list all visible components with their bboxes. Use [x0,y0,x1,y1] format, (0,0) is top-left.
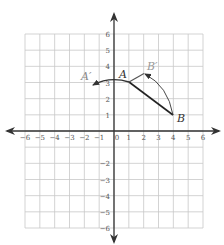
label-a: A [118,68,127,81]
svg-text:5: 5 [186,134,190,142]
svg-text:4: 4 [106,63,111,71]
svg-text:−3: −3 [100,177,110,185]
svg-text:1: 1 [127,134,131,142]
svg-text:3: 3 [156,134,160,142]
svg-text:5: 5 [106,47,110,55]
arc-b-to-b-prime [145,74,173,115]
coordinate-plane-diagram: −6−5−4−3−2−10123456 123456−2−3−4−5−6 A′ … [0,0,224,245]
svg-text:2: 2 [141,134,145,142]
label-a-prime: A′ [80,70,92,83]
segment-ab-prime [129,74,144,83]
svg-text:−3: −3 [64,134,74,142]
svg-text:6: 6 [201,134,206,142]
svg-text:−6: −6 [100,225,111,233]
svg-text:−2: −2 [79,134,89,142]
svg-text:−6: −6 [20,134,31,142]
label-b: B [176,112,185,125]
y-tick-labels: 123456−2−3−4−5−6 [100,31,111,233]
svg-text:1: 1 [106,112,110,120]
label-b-prime: B′ [146,60,158,73]
svg-text:−4: −4 [50,134,61,142]
svg-text:2: 2 [106,96,110,104]
svg-text:4: 4 [171,134,176,142]
svg-text:−5: −5 [100,209,110,217]
svg-text:−2: −2 [100,160,110,168]
svg-text:6: 6 [106,31,111,39]
svg-text:0: 0 [115,134,119,142]
svg-text:−5: −5 [35,134,45,142]
x-tick-labels: −6−5−4−3−2−10123456 [20,134,206,142]
svg-text:−4: −4 [100,193,111,201]
svg-text:−1: −1 [94,134,104,142]
